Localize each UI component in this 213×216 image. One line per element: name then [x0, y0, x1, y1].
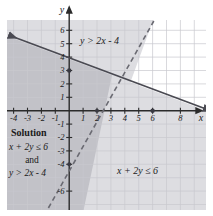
solution-title: Solution [11, 127, 47, 138]
y-tick-label: -1 [57, 119, 64, 129]
y-axis-label: y [59, 4, 65, 15]
solution-inequality-2: y > 2x - 4 [8, 168, 46, 178]
y-tick-label: -4 [57, 159, 65, 169]
x-tick-label: -4 [10, 113, 18, 123]
label-x-plus-2y-le-6: x + 2y ≤ 6 [116, 165, 158, 176]
x-tick-label: -3 [24, 113, 31, 123]
y-tick-label: -3 [57, 146, 64, 156]
graph-figure: -4 -3 -2 -1 1 2 3 4 5 6 8 6 5 4 3 2 1 -1… [0, 0, 213, 216]
y-tick-label: 3 [59, 65, 64, 75]
solution-inequality-1: x + 2y ≤ 6 [8, 142, 48, 152]
solution-connector: and [25, 155, 39, 165]
x-tick-label: 1 [81, 113, 85, 123]
y-tick-label: 1 [60, 92, 64, 102]
x-tick-label: -2 [38, 113, 46, 123]
y-tick-label: -2 [57, 132, 65, 142]
x-axis-label: x [198, 112, 204, 123]
label-y-gt-2x-minus-4: y > 2x - 4 [79, 35, 119, 46]
coordinate-plane-svg: -4 -3 -2 -1 1 2 3 4 5 6 8 6 5 4 3 2 1 -1… [0, 0, 213, 216]
x-tick-label: 6 [150, 113, 155, 123]
y-tick-label: -6 [57, 186, 65, 196]
x-tick-label: 3 [108, 113, 113, 123]
x-tick-label: 4 [123, 113, 128, 123]
x-tick-label: 5 [137, 113, 141, 123]
y-tick-label: 5 [60, 39, 64, 49]
x-tick-label: 8 [178, 113, 183, 123]
